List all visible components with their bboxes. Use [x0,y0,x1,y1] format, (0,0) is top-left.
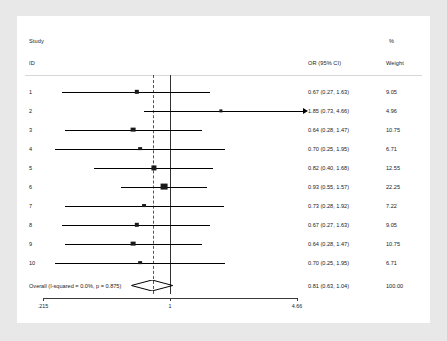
study-weight-label: 10.75 [386,241,400,247]
ci-truncation-arrow-icon [303,108,308,114]
forest-plot-body: 10.67 (0.27, 1.63)9.0521.85 (0.73, 4.66)… [17,75,430,323]
effect-marker [219,109,222,112]
study-id-label: 10 [29,260,35,266]
column-header-id: ID [29,60,35,66]
effect-marker [131,127,136,132]
column-header-weight: Weight [386,60,404,66]
table-row: 50.82 (0.40, 1.68)12.55 [17,158,430,177]
x-axis-tick-label: 1 [168,303,171,309]
study-id-label: 7 [29,203,32,209]
study-effect-label: 0.82 (0.40, 1.68) [308,165,349,171]
x-axis-tick-label: .215 [38,303,49,309]
study-effect-label: 0.73 (0.28, 1.92) [308,203,349,209]
study-weight-label: 9.05 [386,222,397,228]
overall-diamond [132,277,173,295]
effect-marker [161,183,168,190]
column-header-effect: OR (95% CI) [308,60,341,66]
study-id-label: 1 [29,89,32,95]
study-weight-label: 10.75 [386,127,400,133]
study-id-label: 3 [29,127,32,133]
effect-marker [135,222,139,226]
study-id-label: 6 [29,184,32,190]
study-effect-label: 0.64 (0.28, 1.47) [308,127,349,133]
table-row: 60.93 (0.55, 1.57)22.25 [17,177,430,196]
study-effect-label: 1.85 (0.73, 4.66) [308,108,349,114]
study-weight-label: 7.22 [386,203,397,209]
overall-label: Overall (I-squared = 0.0%, p = 0.875) [29,283,121,289]
effect-marker [135,89,139,93]
overall-effect-label: 0.81 (0.63, 1.04) [308,283,349,289]
effect-marker [139,147,143,151]
study-effect-label: 0.67 (0.27, 1.63) [308,222,349,228]
effect-marker [131,241,136,246]
x-axis-tick [297,298,298,301]
study-weight-label: 22.25 [386,184,400,190]
study-id-label: 5 [29,165,32,171]
study-effect-label: 0.64 (0.28, 1.47) [308,241,349,247]
column-header-percent: % [389,38,394,44]
forest-plot-page: Study ID % OR (95% CI) Weight 10.67 (0.2… [0,0,447,341]
effect-marker [142,204,146,208]
x-axis: .21514.66 [17,298,430,328]
study-effect-label: 0.70 (0.25, 1.95) [308,146,349,152]
study-weight-label: 12.55 [386,165,400,171]
x-axis-tick-label: 4.66 [292,303,303,309]
x-axis-tick [43,298,44,301]
study-id-label: 9 [29,241,32,247]
study-effect-label: 0.67 (0.27, 1.63) [308,89,349,95]
column-header-study: Study [29,38,44,44]
effect-marker [139,261,143,265]
study-effect-label: 0.93 (0.55, 1.57) [308,184,349,190]
study-id-label: 4 [29,146,32,152]
x-axis-tick [170,298,171,301]
study-id-label: 8 [29,222,32,228]
study-weight-label: 6.71 [386,260,397,266]
overall-row: Overall (I-squared = 0.0%, p = 0.875)0.8… [17,276,430,295]
study-weight-label: 9.05 [386,89,397,95]
study-effect-label: 0.70 (0.25, 1.95) [308,260,349,266]
overall-weight-label: 100.00 [386,283,403,289]
confidence-interval-line [144,111,305,112]
effect-marker [151,165,156,170]
study-weight-label: 4.96 [386,108,397,114]
plot-panel: Study ID % OR (95% CI) Weight 10.67 (0.2… [17,16,430,323]
study-id-label: 2 [29,108,32,114]
study-weight-label: 6.71 [386,146,397,152]
